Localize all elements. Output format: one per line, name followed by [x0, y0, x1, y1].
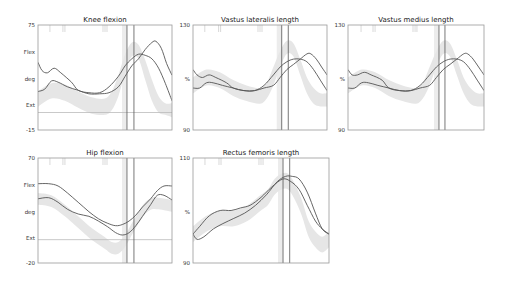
y-axis-label: deg — [25, 209, 35, 216]
y-axis-label: 90 — [183, 260, 190, 266]
y-axis-label: Flex — [24, 49, 36, 55]
plot-title: Hip flexion — [86, 149, 123, 157]
normal-range-band — [38, 42, 172, 117]
panel-knee-flexion: Knee flexion75-15FlexdegExt — [24, 16, 172, 133]
panel-rectus-femoris-length: Rectus femoris length11090% — [180, 149, 330, 266]
y-axis-label: Flex — [24, 182, 36, 188]
y-axis-label: -15 — [26, 127, 35, 133]
gait-kinematics-figure: Knee flexion75-15FlexdegExtVastus latera… — [0, 0, 505, 281]
normal-range-band — [193, 40, 327, 106]
y-axis-label: 130 — [180, 22, 191, 28]
plot-title: Rectus femoris length — [223, 149, 300, 157]
y-axis-label: % — [185, 76, 190, 82]
y-axis-label: % — [340, 76, 345, 82]
y-axis-label: 110 — [180, 155, 191, 161]
y-axis-label: -20 — [26, 260, 35, 266]
y-axis-label: Ext — [26, 235, 36, 241]
y-axis-label: 75 — [28, 22, 35, 28]
plot-title: Vastus lateralis length — [221, 16, 299, 24]
y-axis-label: 130 — [335, 22, 346, 28]
y-axis-label: % — [185, 209, 190, 215]
y-axis-label: Ext — [26, 102, 36, 108]
panel-hip-flexion: Hip flexion70-20FlexdegExt — [24, 149, 172, 266]
panel-vastus-medius-length: Vastus medius length13090% — [335, 16, 485, 133]
panel-vastus-lateralis-length: Vastus lateralis length13090% — [180, 16, 328, 133]
y-axis-label: 70 — [28, 155, 35, 161]
y-axis-label: deg — [25, 76, 35, 83]
y-axis-label: 90 — [338, 127, 345, 133]
plot-title: Knee flexion — [83, 16, 126, 24]
y-axis-label: 90 — [183, 127, 190, 133]
toe-off-normal-band — [277, 25, 282, 130]
plot-title: Vastus medius length — [378, 16, 453, 24]
